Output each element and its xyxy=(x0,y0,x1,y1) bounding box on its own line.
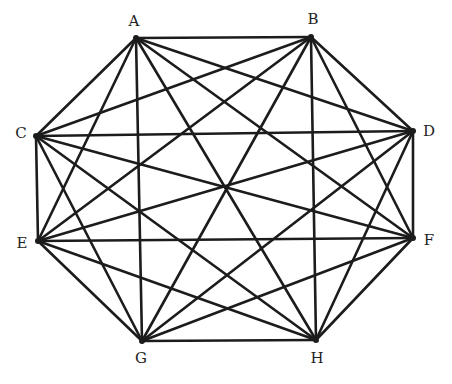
vertex-label-a: A xyxy=(128,12,140,30)
edge-c-g xyxy=(36,136,142,341)
edge-g-h xyxy=(142,340,316,341)
edge-b-e xyxy=(38,37,311,241)
edge-f-h xyxy=(316,238,413,340)
edge-b-g xyxy=(142,37,311,341)
edge-e-g xyxy=(38,241,142,341)
edge-e-f xyxy=(38,238,413,241)
edge-b-d xyxy=(311,37,413,131)
vertex-g xyxy=(139,338,145,344)
edge-d-h xyxy=(316,131,413,340)
edge-d-g xyxy=(142,131,413,341)
edge-d-e xyxy=(38,131,413,241)
edges-group xyxy=(36,37,413,341)
vertex-label-d: D xyxy=(423,122,435,140)
vertex-b xyxy=(308,34,314,40)
complete-graph-k8: ABCDEFGH xyxy=(0,0,452,384)
edge-c-d xyxy=(36,131,413,136)
vertex-e xyxy=(35,238,41,244)
vertex-d xyxy=(410,128,416,134)
edge-b-f xyxy=(311,37,413,238)
edge-b-h xyxy=(311,37,316,340)
vertex-label-e: E xyxy=(17,234,28,252)
vertex-label-h: H xyxy=(310,349,323,367)
edge-a-g xyxy=(136,38,142,341)
edge-a-b xyxy=(136,37,311,38)
vertex-label-c: C xyxy=(15,124,26,142)
vertex-h xyxy=(313,337,319,343)
vertex-c xyxy=(33,133,39,139)
vertex-a xyxy=(133,35,139,41)
vertex-f xyxy=(410,235,416,241)
edge-c-e xyxy=(36,136,38,241)
vertex-label-f: F xyxy=(424,231,434,249)
edge-a-c xyxy=(36,38,136,136)
vertex-label-g: G xyxy=(135,349,147,367)
vertex-label-b: B xyxy=(307,10,318,28)
